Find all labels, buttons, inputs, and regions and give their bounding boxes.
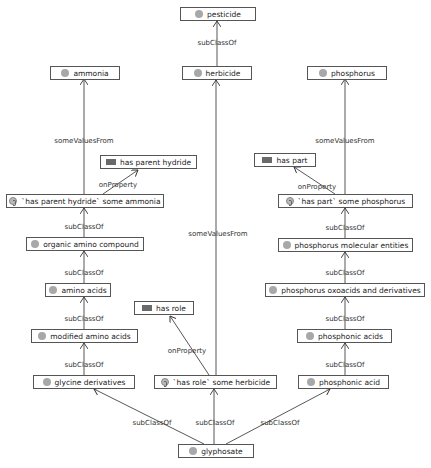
class-icon: [307, 378, 315, 386]
edge-label-subclassof: subClassOf: [65, 315, 104, 323]
class-icon: [306, 332, 314, 340]
node-organic-amino-compound[interactable]: organic amino compound: [26, 237, 144, 251]
node-label: has part: [276, 156, 307, 165]
node-label: modified amino acids: [50, 332, 130, 341]
class-icon: [195, 10, 203, 18]
node-phosphonic-acid[interactable]: phosphonic acid: [298, 375, 389, 389]
node-glyphosate[interactable]: glyphosate: [178, 444, 254, 458]
node-label: has role: [156, 304, 186, 313]
edge-label-subclassof: subClassOf: [326, 269, 365, 277]
object-property-icon: [106, 159, 116, 165]
edge-label-somevaluesfrom: someValuesFrom: [315, 137, 374, 145]
node-phosphorus-oxoacids-and-derivatives[interactable]: phosphorus oxoacids and derivatives: [265, 283, 425, 297]
edge-label-somevaluesfrom: someValuesFrom: [54, 137, 113, 145]
node-herbicide[interactable]: herbicide: [182, 66, 252, 80]
node-label: pesticide: [207, 10, 241, 19]
class-icon: [189, 447, 197, 455]
edge-label-subclassof: subClassOf: [326, 361, 365, 369]
node-label: glycine derivatives: [55, 378, 126, 387]
edge-label-subclassof: subClassOf: [261, 419, 300, 427]
edge-label-somevaluesfrom: someValuesFrom: [188, 230, 247, 238]
node-has-parent-hydride[interactable]: has parent hydride: [100, 155, 197, 169]
node-phosphonic-acids[interactable]: phosphonic acids: [297, 329, 392, 343]
edge-label-onproperty: onProperty: [298, 183, 336, 191]
edge-label-subclassof: subClassOf: [198, 39, 237, 47]
node-label: phosphonic acids: [318, 332, 383, 341]
node-amino-acids[interactable]: amino acids: [45, 283, 111, 297]
node-label: `has part` some phosphorus: [298, 197, 406, 206]
class-icon: [38, 332, 46, 340]
restriction-icon: [161, 378, 169, 386]
node-label: phosphorus molecular entities: [295, 241, 409, 250]
class-icon: [31, 240, 39, 248]
node-has-part[interactable]: has part: [254, 153, 316, 167]
class-icon: [49, 286, 57, 294]
class-icon: [269, 286, 277, 294]
node-pesticide[interactable]: pesticide: [180, 7, 256, 21]
class-icon: [283, 241, 291, 249]
node-label: phosphorus: [331, 69, 375, 78]
ontology-graph: subClassOf someValuesFrom onProperty sub…: [0, 0, 431, 468]
node-has-parent-hydride-some-ammonia[interactable]: `has parent hydride` some ammonia: [6, 194, 164, 208]
node-glycine-derivatives[interactable]: glycine derivatives: [33, 375, 135, 389]
node-has-role-some-herbicide[interactable]: `has role` some herbicide: [154, 375, 277, 389]
node-ammonia[interactable]: ammonia: [50, 66, 120, 80]
edge-label-subclassof: subClassOf: [196, 419, 235, 427]
node-label: has parent hydride: [120, 158, 191, 167]
node-label: ammonia: [73, 69, 108, 78]
node-has-role[interactable]: has role: [134, 301, 194, 315]
restriction-icon: [9, 197, 17, 205]
node-label: phosphonic acid: [319, 378, 380, 387]
node-label: amino acids: [61, 286, 106, 295]
node-label: phosphorus oxoacids and derivatives: [281, 286, 420, 295]
node-label: organic amino compound: [43, 240, 139, 249]
edge-label-onproperty: onProperty: [168, 347, 206, 355]
node-label: herbicide: [206, 69, 241, 78]
node-phosphorus[interactable]: phosphorus: [307, 66, 387, 80]
class-icon: [43, 378, 51, 386]
edge-label-subclassof: subClassOf: [65, 361, 104, 369]
edge-label-subclassof: subClassOf: [65, 269, 104, 277]
node-has-part-some-phosphorus[interactable]: `has part` some phosphorus: [278, 194, 413, 208]
edge-label-subclassof: subClassOf: [65, 223, 104, 231]
class-icon: [319, 69, 327, 77]
node-label: glyphosate: [201, 447, 242, 456]
node-label: `has parent hydride` some ammonia: [21, 197, 160, 206]
class-icon: [194, 69, 202, 77]
object-property-icon: [142, 305, 152, 311]
edge-label-subclassof: subClassOf: [326, 315, 365, 323]
edge-label-subclassof: subClassOf: [133, 419, 172, 427]
object-property-icon: [262, 157, 272, 163]
edge-label-onproperty: onProperty: [99, 181, 137, 189]
class-icon: [61, 69, 69, 77]
node-label: `has role` some herbicide: [173, 378, 270, 387]
restriction-icon: [286, 197, 294, 205]
edge-label-subclassof: subClassOf: [326, 224, 365, 232]
node-modified-amino-acids[interactable]: modified amino acids: [31, 329, 138, 343]
node-phosphorus-molecular-entities[interactable]: phosphorus molecular entities: [278, 238, 413, 252]
